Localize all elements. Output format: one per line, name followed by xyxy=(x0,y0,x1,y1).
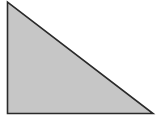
right-triangle-diagram xyxy=(0,0,156,118)
